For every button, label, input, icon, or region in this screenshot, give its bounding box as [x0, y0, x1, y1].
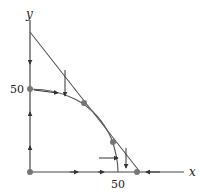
curve-nullcline	[30, 89, 118, 172]
equilibrium-point-x-intercept	[134, 169, 140, 175]
y-tick-label: 50	[10, 83, 24, 96]
y-axis-label: y	[25, 7, 33, 21]
x-tick-label: 50	[111, 178, 125, 191]
equilibrium-point-y-intercept	[27, 86, 33, 92]
equilibrium-point-origin	[27, 169, 33, 175]
equilibrium-point-lower-intersection	[110, 139, 116, 145]
equilibrium-point-upper-intersection	[81, 100, 87, 106]
x-axis-label: x	[189, 165, 196, 179]
phase-plane-diagram: y x 50 50	[0, 0, 199, 195]
